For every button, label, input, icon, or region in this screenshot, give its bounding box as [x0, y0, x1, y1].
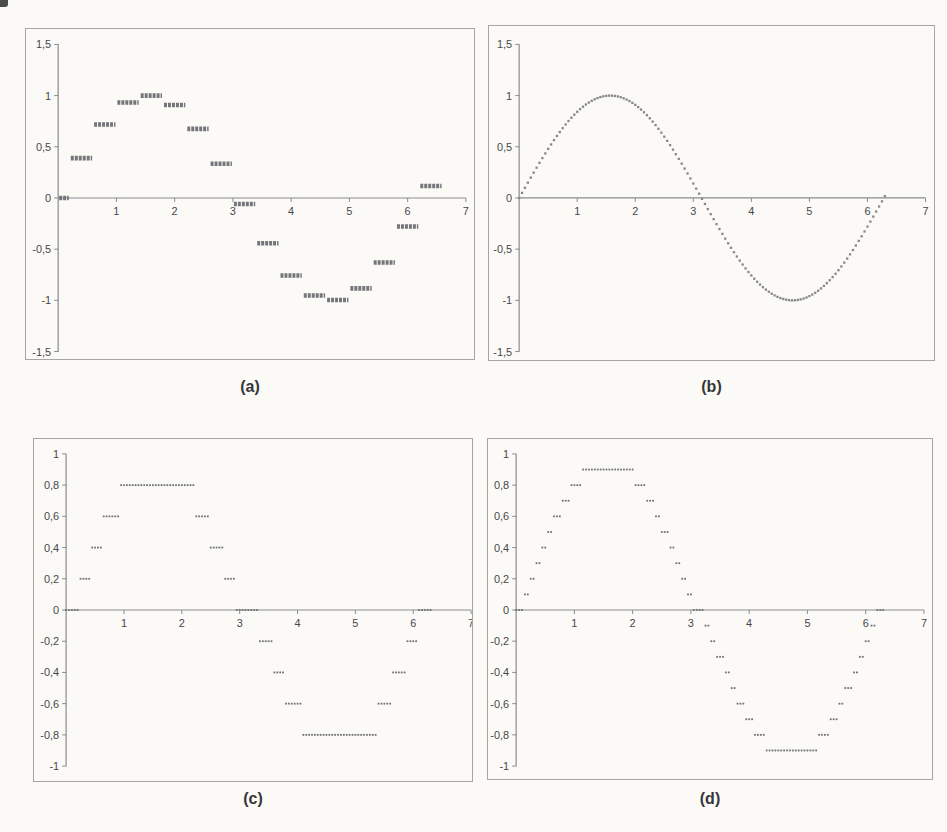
data-point	[739, 259, 741, 261]
data-point	[756, 281, 758, 283]
data-point	[660, 132, 662, 134]
data-point	[117, 515, 119, 517]
data-point	[574, 484, 576, 486]
data-point	[355, 734, 357, 736]
x-tick-label: 6	[410, 617, 416, 629]
data-point	[518, 609, 520, 611]
data-point	[65, 609, 67, 611]
data-point	[855, 244, 857, 246]
y-tick-label: -1	[499, 760, 509, 772]
data-point	[878, 205, 880, 207]
data-point	[853, 672, 855, 674]
data-point	[791, 299, 793, 301]
chart-c-plot: 10,80,60,40,20-0,2-0,4-0,6-0,8-11234567	[34, 439, 472, 781]
data-point	[349, 734, 351, 736]
y-tick-label: -1,5	[32, 346, 51, 358]
data-point	[236, 609, 238, 611]
data-point	[337, 734, 339, 736]
y-tick-label: -0,4	[40, 666, 59, 678]
data-point	[565, 500, 567, 502]
data-point	[841, 703, 843, 705]
chart-panel-b: 1,510,50-0,5-1-1,51234567	[488, 25, 935, 361]
data-point	[550, 143, 552, 145]
data-point	[369, 734, 371, 736]
data-point	[155, 484, 157, 486]
data-point	[831, 276, 833, 278]
data-point	[352, 734, 354, 736]
data-point	[308, 734, 310, 736]
data-point	[201, 515, 203, 517]
data-point	[227, 578, 229, 580]
data-point	[655, 515, 657, 517]
data-point	[106, 515, 108, 517]
data-point	[524, 593, 526, 595]
data-point	[817, 290, 819, 292]
data-point	[614, 469, 616, 471]
data-point	[811, 293, 813, 295]
data-point	[152, 484, 154, 486]
data-point	[707, 625, 709, 627]
data-point	[666, 140, 668, 142]
data-point	[783, 750, 785, 752]
y-tick-label: 0	[45, 192, 51, 204]
data-point	[320, 734, 322, 736]
data-point	[562, 500, 564, 502]
data-point	[731, 687, 733, 689]
data-point	[821, 734, 823, 736]
data-point	[340, 734, 342, 736]
data-point	[602, 95, 604, 97]
data-point	[664, 531, 666, 533]
data-point	[798, 750, 800, 752]
data-point	[553, 139, 555, 141]
data-point	[754, 734, 756, 736]
data-point	[843, 261, 845, 263]
chart-a-plot: 1,510,50-0,5-1-1,51234567	[26, 29, 474, 359]
data-point	[678, 158, 680, 160]
data-point	[815, 750, 817, 752]
data-point	[837, 269, 839, 271]
data-point	[184, 484, 186, 486]
data-point	[541, 157, 543, 159]
data-point	[844, 687, 846, 689]
data-point	[204, 515, 206, 517]
x-tick-label: 3	[237, 617, 243, 629]
x-tick-label: 4	[295, 617, 301, 629]
data-point	[814, 292, 816, 294]
y-tick-label: -0,4	[490, 666, 509, 678]
data-point	[164, 484, 166, 486]
data-point	[693, 609, 695, 611]
data-point	[276, 672, 278, 674]
data-point	[692, 182, 694, 184]
data-point	[268, 640, 270, 642]
data-point	[149, 484, 151, 486]
data-point	[715, 223, 717, 225]
x-tick-label: 2	[172, 205, 178, 217]
data-point	[712, 218, 714, 220]
y-tick-label: 1	[503, 448, 509, 460]
data-point	[785, 299, 787, 301]
data-point	[132, 484, 134, 486]
data-point	[881, 200, 883, 202]
data-point	[773, 294, 775, 296]
data-point	[360, 734, 362, 736]
data-point	[724, 237, 726, 239]
data-point	[175, 484, 177, 486]
data-point	[527, 593, 529, 595]
data-point	[427, 609, 429, 611]
data-point	[875, 210, 877, 212]
data-point	[239, 609, 241, 611]
data-point	[559, 131, 561, 133]
data-point	[221, 547, 223, 549]
data-point	[521, 192, 523, 194]
data-point	[591, 469, 593, 471]
data-point	[285, 703, 287, 705]
data-point	[812, 750, 814, 752]
data-point	[593, 98, 595, 100]
data-point	[789, 750, 791, 752]
data-point	[378, 703, 380, 705]
data-point	[718, 228, 720, 230]
data-point	[291, 703, 293, 705]
data-point	[530, 578, 532, 580]
data-point	[323, 734, 325, 736]
data-point	[672, 148, 674, 150]
